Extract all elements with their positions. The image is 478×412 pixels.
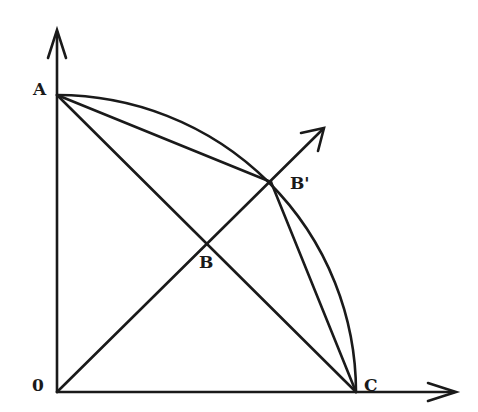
label-a: A (32, 79, 47, 99)
diagram-canvas: A B B' C 0 (0, 0, 478, 412)
label-b-prime: B' (290, 173, 310, 193)
chord-a-bprime (57, 95, 271, 182)
label-origin: 0 (32, 375, 44, 395)
label-b: B (199, 252, 213, 272)
chord-bprime-c (271, 182, 356, 392)
label-c: C (364, 375, 378, 395)
diagonal-ray (57, 129, 323, 392)
